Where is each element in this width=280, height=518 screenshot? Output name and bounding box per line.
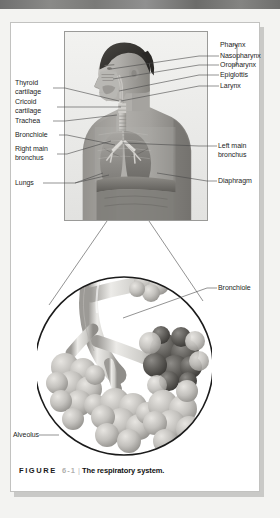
- figure-caption: FIGURE6-1|The respiratory system.: [19, 466, 251, 475]
- alveoli-artwork: [37, 271, 212, 461]
- screen-top-strip: [0, 0, 280, 9]
- label-epiglottis: Epiglottis: [220, 71, 248, 80]
- photo-artwork: [65, 32, 207, 220]
- label-bronchiole-inset: Bronchiole: [218, 284, 251, 293]
- label-cricoid-cartilage: Cricoid cartilage: [15, 98, 41, 115]
- label-alveolus-inset: Alveolus: [13, 431, 39, 440]
- caption-title: The respiratory system.: [82, 466, 164, 475]
- label-oropharynx: Oropharynx: [220, 61, 256, 70]
- caption-figure-word: FIGURE: [19, 466, 57, 475]
- label-pharynx: Pharynx: [220, 41, 245, 50]
- label-lungs: Lungs: [15, 179, 34, 188]
- textbook-page: Thyroid cartilage Cricoid cartilage Trac…: [10, 22, 260, 492]
- label-diaphragm: Diaphragm: [218, 177, 252, 186]
- label-larynx: Larynx: [220, 82, 241, 91]
- label-bronchiole: Bronchiole: [15, 131, 48, 140]
- respiratory-photograph: [64, 31, 208, 221]
- label-thyroid-cartilage: Thyroid cartilage: [15, 79, 41, 96]
- label-left-main-bronchus: Left main bronchus: [218, 142, 246, 159]
- alveoli-inset: [37, 271, 212, 461]
- label-nasopharynx: Nasopharynx: [220, 52, 261, 61]
- label-trachea: Trachea: [15, 117, 40, 126]
- label-right-main-bronchus: Right main bronchus: [15, 145, 48, 162]
- caption-figure-number: 6-1: [62, 466, 76, 475]
